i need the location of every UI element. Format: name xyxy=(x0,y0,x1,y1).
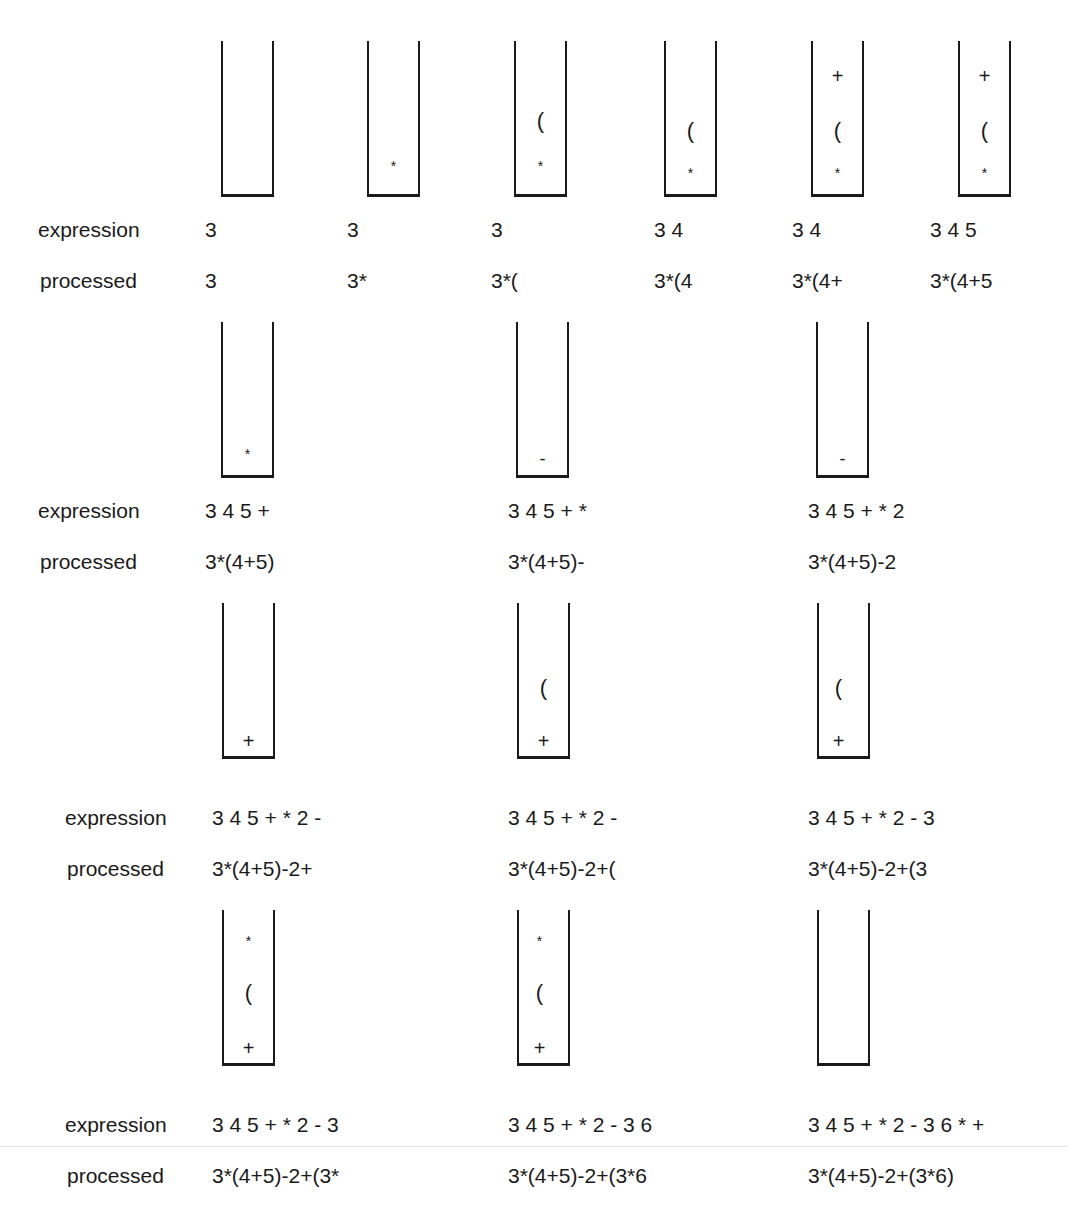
processed-value: 3*(4+5)-2+(3*6) xyxy=(808,1164,954,1188)
stack-r1-s3: * ( xyxy=(514,41,567,197)
stack-item-paren: ( xyxy=(666,120,715,142)
expression-value: 3 4 5 + * 2 - xyxy=(508,806,617,830)
stack-item-plus: + xyxy=(224,731,273,751)
processed-value: 3* xyxy=(347,269,367,293)
stack-r1-s1 xyxy=(221,41,274,197)
expression-value: 3 xyxy=(491,218,503,242)
processed-value: 3*(4+5)-2+(3*6 xyxy=(508,1164,647,1188)
stack-item-star: * xyxy=(511,934,568,948)
processed-value: 3*( xyxy=(491,269,518,293)
stack-item-paren: ( xyxy=(511,982,568,1004)
processed-value: 3*(4 xyxy=(654,269,693,293)
stack-item-minus: - xyxy=(818,450,867,468)
stack-r1-s2: * xyxy=(367,41,420,197)
expression-value: 3 4 xyxy=(792,218,821,242)
stack-r2-s1: * xyxy=(221,322,274,478)
expression-value: 3 4 5 + * xyxy=(508,499,587,523)
expression-value: 3 4 xyxy=(654,218,683,242)
stack-item-star: * xyxy=(516,159,565,173)
stack-r3-s1: + xyxy=(222,603,275,759)
processed-value: 3*(4+5)-2+( xyxy=(508,857,615,881)
stack-item-plus: + xyxy=(809,731,868,751)
expression-value: 3 4 5 + * 2 - 3 xyxy=(808,806,935,830)
expression-value: 3 4 5 + * 2 - 3 xyxy=(212,1113,339,1137)
expression-label: expression xyxy=(65,1113,167,1137)
stack-r2-s3: - xyxy=(816,322,869,478)
expression-value: 3 4 5 + xyxy=(205,499,270,523)
processed-value: 3*(4+ xyxy=(792,269,843,293)
processed-value: 3 xyxy=(205,269,217,293)
stack-item-paren: ( xyxy=(809,677,868,699)
processed-label: processed xyxy=(67,1164,164,1188)
stack-item-paren: ( xyxy=(813,120,862,142)
expression-value: 3 4 5 + * 2 xyxy=(808,499,904,523)
stack-item-paren: ( xyxy=(960,120,1009,142)
stack-item-minus: - xyxy=(518,450,567,468)
stack-item-star: * xyxy=(369,159,418,173)
stack-item-paren: ( xyxy=(516,110,565,132)
stack-item-plus: + xyxy=(224,1038,273,1058)
processed-label: processed xyxy=(40,269,137,293)
stack-r4-s3 xyxy=(817,910,870,1066)
expression-value: 3 xyxy=(205,218,217,242)
stack-r4-s1: + ( * xyxy=(222,910,275,1066)
processed-value: 3*(4+5 xyxy=(930,269,992,293)
stack-r1-s4: * ( xyxy=(664,41,717,197)
stack-r3-s2: + ( xyxy=(517,603,570,759)
stack-item-paren: ( xyxy=(519,677,568,699)
stack-item-plus: + xyxy=(519,731,568,751)
stack-item-star: * xyxy=(223,447,272,461)
expression-value: 3 4 5 xyxy=(930,218,977,242)
stack-item-star: * xyxy=(666,166,715,180)
processed-value: 3*(4+5)- xyxy=(508,550,584,574)
stack-r4-s2: + ( * xyxy=(517,910,570,1066)
stack-item-star: * xyxy=(960,166,1009,180)
expression-label: expression xyxy=(38,499,140,523)
stack-r3-s3: + ( xyxy=(817,603,870,759)
expression-value: 3 4 5 + * 2 - 3 6 xyxy=(508,1113,652,1137)
scan-line-divider xyxy=(0,1146,1068,1147)
stack-r1-s6: * ( + xyxy=(958,41,1011,197)
stack-item-plus: + xyxy=(960,66,1009,86)
stack-item-paren: ( xyxy=(224,982,273,1004)
processed-value: 3*(4+5)-2+(3* xyxy=(212,1164,339,1188)
stack-r1-s5: * ( + xyxy=(811,41,864,197)
expression-value: 3 4 5 + * 2 - 3 6 * + xyxy=(808,1113,984,1137)
stack-item-star: * xyxy=(224,934,273,948)
processed-value: 3*(4+5)-2 xyxy=(808,550,896,574)
stack-r2-s2: - xyxy=(516,322,569,478)
processed-value: 3*(4+5)-2+ xyxy=(212,857,312,881)
processed-label: processed xyxy=(67,857,164,881)
processed-value: 3*(4+5) xyxy=(205,550,274,574)
stack-item-plus: + xyxy=(813,66,862,86)
stack-item-star: * xyxy=(813,166,862,180)
stack-item-plus: + xyxy=(511,1038,568,1058)
expression-value: 3 4 5 + * 2 - xyxy=(212,806,321,830)
processed-value: 3*(4+5)-2+(3 xyxy=(808,857,927,881)
expression-value: 3 xyxy=(347,218,359,242)
expression-label: expression xyxy=(38,218,140,242)
expression-label: expression xyxy=(65,806,167,830)
processed-label: processed xyxy=(40,550,137,574)
